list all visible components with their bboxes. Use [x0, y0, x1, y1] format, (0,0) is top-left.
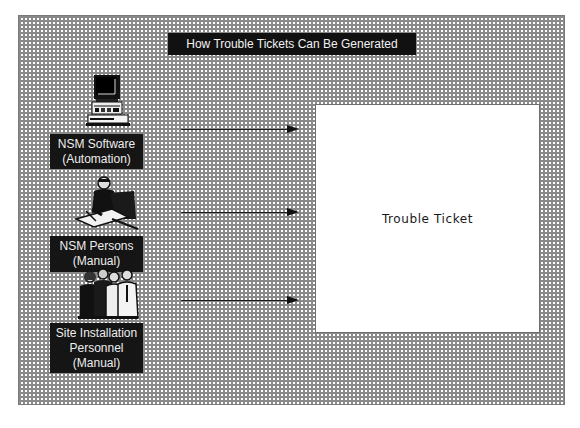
label-line: Personnel: [50, 341, 143, 356]
diagram-title: How Trouble Tickets Can Be Generated: [168, 33, 416, 55]
source-label-nsm-software: NSM Software (Automation): [50, 134, 143, 169]
arrow-head-icon: [287, 125, 299, 133]
trouble-ticket-label: Trouble Ticket: [382, 212, 473, 226]
label-line: (Automation): [50, 152, 143, 167]
arrow-head-icon: [287, 296, 299, 304]
person-at-desk-icon: [72, 175, 142, 233]
computer-icon: [84, 73, 132, 129]
label-line: (Manual): [50, 356, 143, 371]
trouble-ticket-box: Trouble Ticket: [315, 104, 540, 333]
arrow-persons-to-ticket: [181, 208, 299, 216]
arrow-head-icon: [287, 208, 299, 216]
diagram-title-text: How Trouble Tickets Can Be Generated: [186, 37, 397, 51]
source-label-nsm-persons: NSM Persons (Manual): [50, 236, 143, 272]
label-line: NSM Persons: [50, 239, 143, 254]
source-label-site-installation-personnel: Site Installation Personnel (Manual): [50, 323, 143, 373]
label-line: Site Installation: [50, 326, 143, 341]
label-line: (Manual): [50, 254, 143, 269]
arrow-shaft: [181, 129, 289, 130]
arrow-software-to-ticket: [181, 125, 299, 133]
arrow-personnel-to-ticket: [181, 296, 299, 304]
label-line: NSM Software: [50, 137, 143, 152]
arrow-shaft: [181, 300, 289, 301]
arrow-shaft: [181, 212, 289, 213]
group-of-people-icon: [76, 268, 140, 320]
